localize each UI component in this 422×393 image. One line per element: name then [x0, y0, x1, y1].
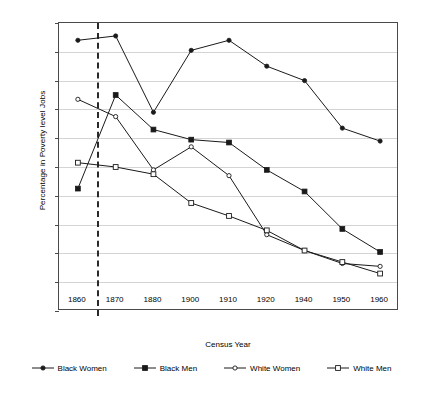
poverty-level-jobs-line-chart: Percentage in Poverty level Jobs 0102030…	[0, 0, 422, 393]
x-tick-label: 1950	[321, 296, 361, 304]
data-point	[302, 189, 307, 194]
data-point	[265, 64, 269, 68]
data-point	[75, 186, 80, 191]
legend-item-white-men[interactable]: White Men	[326, 363, 391, 373]
data-point	[189, 201, 194, 206]
data-point	[227, 38, 231, 42]
y-axis-title: Percentage in Poverty level Jobs	[38, 36, 47, 266]
data-point	[378, 264, 382, 268]
data-point	[378, 250, 383, 255]
data-point	[378, 271, 383, 276]
legend-marker-filled-square-icon	[133, 363, 157, 373]
data-point	[340, 227, 345, 232]
legend-label: Black Women	[58, 364, 107, 373]
data-point	[302, 248, 307, 253]
data-point	[114, 115, 118, 119]
legend-item-black-men[interactable]: Black Men	[133, 363, 197, 373]
data-point	[76, 97, 80, 101]
legend-item-white-women[interactable]: White Women	[223, 363, 300, 373]
x-tick-label: 1910	[208, 296, 248, 304]
x-tick-label: 1960	[359, 296, 399, 304]
series-black-women	[76, 34, 382, 143]
x-tick-label: 1920	[246, 296, 286, 304]
data-point	[151, 172, 156, 177]
series-white-women	[76, 97, 382, 268]
data-point	[75, 160, 80, 165]
legend-label: Black Men	[160, 364, 197, 373]
data-point	[189, 145, 193, 149]
data-point	[378, 139, 382, 143]
data-point	[302, 79, 306, 83]
data-point	[113, 165, 118, 170]
y-tick-mark	[55, 311, 59, 312]
data-point	[189, 48, 193, 52]
data-point	[264, 167, 269, 172]
legend-label: White Men	[353, 364, 391, 373]
data-point	[113, 93, 118, 98]
x-axis-title: Census Year	[58, 340, 398, 349]
data-point	[151, 110, 155, 114]
series-layer	[59, 23, 399, 311]
data-point	[227, 140, 232, 145]
x-tick-label: 1860	[57, 296, 97, 304]
x-tick-label: 1880	[132, 296, 172, 304]
data-point	[151, 127, 156, 132]
chart-legend: Black WomenBlack MenWhite WomenWhite Men	[0, 363, 422, 373]
legend-marker-open-square-icon	[326, 363, 350, 373]
data-point	[227, 214, 232, 219]
data-point	[227, 174, 231, 178]
x-tick-label: 1940	[284, 296, 324, 304]
data-point	[76, 38, 80, 42]
x-tick-label: 1900	[170, 296, 210, 304]
data-point	[151, 168, 155, 172]
data-point	[340, 260, 345, 265]
data-point	[340, 126, 344, 130]
legend-label: White Women	[250, 364, 300, 373]
legend-marker-open-circle-icon	[223, 363, 247, 373]
series-line	[78, 99, 380, 266]
x-tick-label: 1870	[95, 296, 135, 304]
data-point	[264, 228, 269, 233]
plot-area: 0102030405060708090100	[58, 22, 398, 310]
series-line	[78, 36, 380, 141]
data-point	[114, 34, 118, 38]
legend-item-black-women[interactable]: Black Women	[31, 363, 107, 373]
data-point	[189, 137, 194, 142]
legend-marker-filled-circle-icon	[31, 363, 55, 373]
